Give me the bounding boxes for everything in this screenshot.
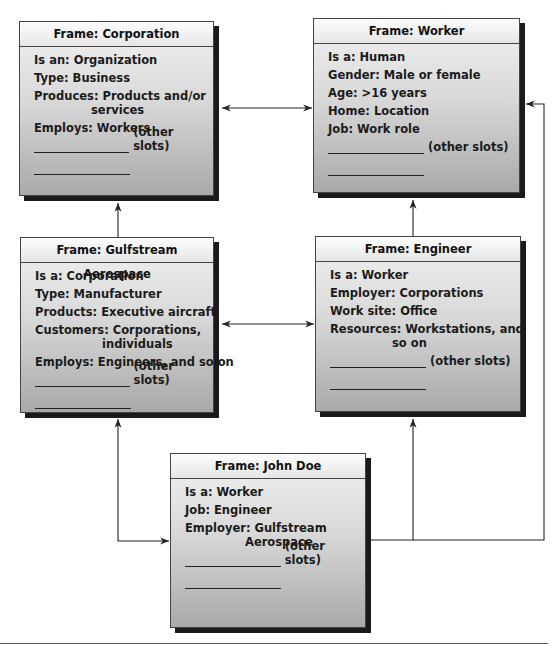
slot-home: Home: Location (328, 104, 519, 118)
frame-title: Frame: Engineer (316, 237, 520, 262)
other-slots-row: (other slots) (185, 553, 365, 567)
slot-gender: Gender: Male or female (328, 68, 519, 82)
slot-resources: Resources: Workstations, and so on (330, 322, 520, 350)
other-slots-row: (other slots) (35, 373, 213, 387)
frame-engineer: Frame: Engineer Is a: Worker Employer: C… (315, 236, 521, 412)
other-slots-row: (other slots) (330, 354, 520, 368)
bottom-divider (0, 643, 548, 644)
frame-gulfstream-aerospace: Frame: Gulfstream Aerospace Is a: Corpor… (20, 237, 214, 413)
slot-produces: Produces: Products and/or services (34, 89, 213, 117)
blank-line (185, 554, 281, 567)
slot-products: Products: Executive aircraft (35, 305, 213, 319)
blank-slot-row (328, 162, 519, 176)
other-slots-label: (other slots) (285, 539, 365, 567)
blank-slot-row (34, 161, 213, 175)
other-slots-row: (other slots) (34, 139, 213, 153)
blank-line (35, 374, 130, 387)
frame-title: Frame: Worker (314, 19, 519, 44)
frame-worker: Frame: Worker Is a: Human Gender: Male o… (313, 18, 520, 193)
slot-is-a: Is a: Corporation (35, 269, 213, 283)
slot-is-a: Is a: Worker (330, 268, 520, 282)
slot-customers-text: Customers: Corporations, (35, 323, 201, 337)
other-slots-label: (other slots) (430, 354, 511, 368)
other-slots-label: (other slots) (134, 359, 213, 387)
slot-is-a: Is a: Worker (185, 485, 365, 499)
other-slots-label: (other slots) (133, 125, 213, 153)
blank-line (34, 162, 130, 175)
slot-employer-text: Employer: Gulfstream (185, 521, 327, 535)
blank-line (35, 396, 131, 409)
slot-age: Age: >16 years (328, 86, 519, 100)
blank-line (328, 141, 424, 154)
slot-type: Type: Manufacturer (35, 287, 213, 301)
slot-is-a: Is a: Human (328, 50, 519, 64)
slot-produces-text: Produces: Products and/or (34, 89, 206, 103)
blank-line (185, 576, 281, 589)
slot-employer: Employer: Corporations (330, 286, 520, 300)
slot-is-an: Is an: Organization (34, 53, 213, 67)
slot-type: Type: Business (34, 71, 213, 85)
blank-line (330, 355, 426, 368)
frame-john-doe: Frame: John Doe Is a: Worker Job: Engine… (170, 453, 366, 628)
other-slots-row: (other slots) (328, 140, 519, 154)
frame-title: Frame: Corporation (20, 22, 213, 47)
blank-slot-row (185, 575, 365, 589)
blank-line (34, 140, 129, 153)
slot-job: Job: Work role (328, 122, 519, 136)
slot-customers: Customers: Corporations, individuals (35, 323, 213, 351)
blank-line (328, 163, 424, 176)
other-slots-label: (other slots) (428, 140, 509, 154)
frame-title: Frame: Gulfstream Aerospace (21, 238, 213, 263)
frame-title: Frame: John Doe (171, 454, 365, 479)
johndoe-engineer-arrow (371, 419, 413, 540)
slot-work-site: Work site: Office (330, 304, 520, 318)
slot-resources-text: Resources: Workstations, and (330, 322, 524, 336)
frame-corporation: Frame: Corporation Is an: Organization T… (19, 21, 214, 196)
gulfstream-johndoe-arrow (118, 419, 169, 541)
blank-slot-row (330, 376, 520, 390)
slot-job: Job: Engineer (185, 503, 365, 517)
blank-slot-row (35, 395, 213, 409)
blank-line (330, 377, 426, 390)
slot-produces-cont: services (34, 103, 213, 117)
slot-customers-cont: individuals (35, 337, 213, 351)
slot-resources-cont: so on (330, 336, 520, 350)
